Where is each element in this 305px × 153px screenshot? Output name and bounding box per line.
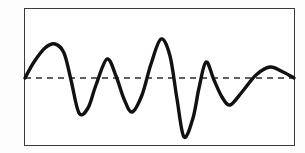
waveform-plot-svg [0,0,305,153]
waveform-figure [0,0,305,153]
waveform-curve [25,39,294,138]
